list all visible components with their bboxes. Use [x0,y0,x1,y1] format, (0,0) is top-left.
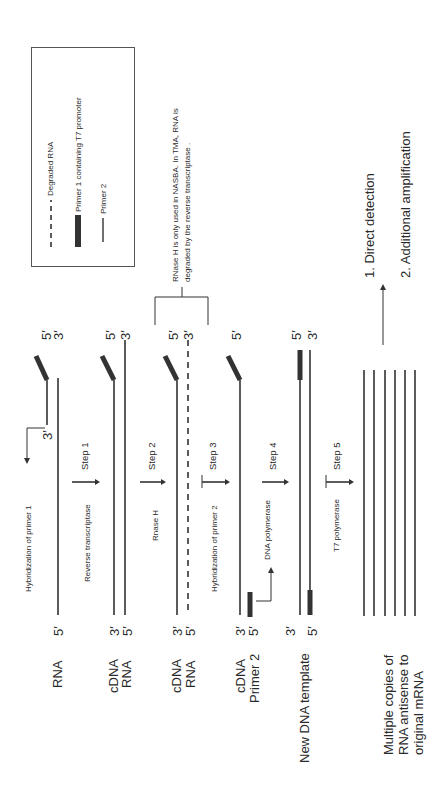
primer1-t7-bar [165,356,177,380]
outcome-additional-amplification: 2. Additional amplification [398,131,413,278]
row-label-rna: RNA [50,661,65,688]
legend-primer1: Primer 1 containing T7 promoter [74,97,83,212]
end-label: 3′ [283,626,298,636]
row-label-cdna: cDNA [169,659,184,693]
step-5-label: Step 5 [331,443,342,470]
end-label: 3′ [51,330,66,340]
end-label: 5′ [229,330,244,340]
rnase-note-line1: RNase H is only used in NASBA. In TMA, R… [171,108,180,282]
step-4-label: Step 4 [267,443,278,470]
end-label: 3′ [181,330,196,340]
row-label-copies-line3: original mRNA [411,671,426,755]
outcome-direct-detection: 1. Direct detection [362,173,377,278]
end-label: 5′ [305,626,320,636]
dna-polymerase-label: DNA polymerase [263,500,272,560]
step-3-label: Step 3 [207,443,218,470]
hybridization-primer2-label: Hybridization of primer 2 [210,505,219,592]
end-label: 5′ [51,626,66,636]
row-label-cdna: cDNA [233,659,248,693]
rnase-h-label: Rnase H [151,510,160,541]
end-label: 5′ [166,330,181,340]
end-label: 3′ [118,330,133,340]
t7-polymerase-label: T7 polymerase [332,499,341,552]
reverse-transcriptase-label: Reverse transcriptase [83,504,92,582]
rnase-note-line2: degraded by the reverse transcriptase . [183,143,192,282]
legend-degraded-rna: Degraded RNA [46,142,55,196]
row-label-rna: RNA [119,661,134,688]
row-label-primer2: Primer 2 [247,654,262,703]
end-label: 5′ [120,626,135,636]
hybridization-primer1-label: Hybridization of primer 1 [24,505,33,592]
row-label-copies-line1: Multiple copies of [381,655,396,755]
row-label-copies-line2: RNA antisense to [396,655,411,755]
end-label: 3′ [305,330,320,340]
end-label: 5′ [103,330,118,340]
end-label: 5′ [183,626,198,636]
legend-primer2: Primer 2 [99,184,108,214]
primer1-t7-bar [228,356,240,380]
row-label-rna: RNA [183,661,198,688]
primer1-t7-bar [102,356,114,380]
end-label: 5′ [289,330,304,340]
end-label: 3′ [40,430,55,440]
row-label-new-dna-template: New DNA template [297,653,312,763]
end-label: 5′ [246,626,261,636]
primer1-t7-bar [36,356,47,380]
step-2-label: Step 2 [146,443,157,470]
step-1-label: Step 1 [79,443,90,470]
